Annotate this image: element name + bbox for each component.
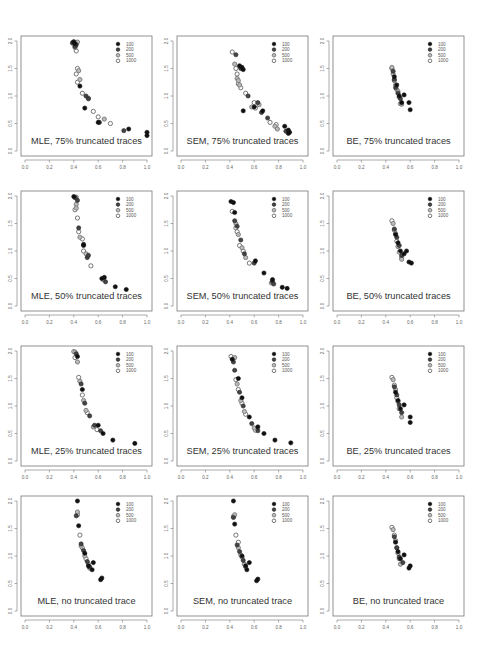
- x-tick-label: 1.0: [300, 625, 307, 630]
- x-tick-label: 0.0: [178, 475, 185, 480]
- legend-label: 500: [438, 363, 446, 368]
- legend-marker-icon: [272, 513, 276, 517]
- data-point-n100: [91, 561, 95, 565]
- y-tick-label: 1.0: [8, 247, 13, 254]
- data-point-n100: [398, 249, 402, 253]
- data-point-n1000: [247, 261, 251, 265]
- legend-label: 200: [282, 357, 290, 362]
- panel-title: BE, 25% truncated traces: [346, 446, 451, 456]
- legend-marker-icon: [272, 369, 276, 373]
- data-point-n500: [275, 127, 279, 131]
- legend-label: 200: [126, 202, 134, 207]
- scatter-panel: 0.00.20.40.60.81.00.00.51.01.52.01002005…: [156, 490, 317, 640]
- data-point-n200: [241, 558, 245, 562]
- data-point-n100: [398, 407, 402, 411]
- legend-marker-icon: [428, 513, 432, 517]
- x-tick-label: 0.2: [202, 165, 209, 170]
- data-point-n1000: [234, 533, 238, 537]
- x-tick-label: 0.2: [46, 625, 53, 630]
- legend-marker-icon: [116, 214, 120, 218]
- legend-marker-icon: [272, 352, 276, 356]
- data-point-n100: [236, 376, 240, 380]
- legend-label: 200: [438, 47, 446, 52]
- scatter-panel: 0.00.20.40.60.81.00.00.51.01.52.01002005…: [156, 185, 317, 335]
- data-point-n100: [75, 499, 79, 503]
- data-point-n200: [392, 535, 396, 539]
- data-point-n100: [408, 415, 412, 419]
- data-point-n100: [398, 557, 402, 561]
- legend-label: 100: [282, 42, 290, 47]
- legend-marker-icon: [272, 358, 276, 362]
- legend-marker-icon: [272, 59, 276, 63]
- x-tick-label: 0.2: [46, 320, 53, 325]
- data-point-n100: [111, 438, 115, 442]
- data-point-n500: [75, 360, 79, 364]
- data-point-n100: [392, 75, 396, 79]
- legend-label: 500: [126, 208, 134, 213]
- x-tick-label: 0.8: [119, 165, 126, 170]
- data-point-n200: [122, 129, 126, 133]
- data-point-n100: [72, 194, 76, 198]
- x-tick-label: 0.4: [227, 625, 234, 630]
- y-tick-label: 2.0: [320, 37, 325, 44]
- legend-label: 1000: [282, 213, 293, 218]
- y-tick-label: 1.5: [8, 65, 13, 72]
- data-point-n200: [231, 515, 235, 519]
- data-point-n200: [88, 414, 92, 418]
- data-point-n100: [289, 441, 293, 445]
- x-tick-label: 0.4: [71, 165, 78, 170]
- legend-marker-icon: [428, 508, 432, 512]
- data-point-n200: [256, 101, 260, 105]
- legend-label: 200: [126, 507, 134, 512]
- data-point-n100: [231, 201, 235, 205]
- data-point-n100: [253, 259, 257, 263]
- data-point-n200: [83, 401, 87, 405]
- y-tick-label: 0.5: [8, 580, 13, 587]
- data-point-n100: [83, 551, 87, 555]
- x-tick-label: 0.2: [358, 320, 365, 325]
- data-point-n200: [233, 219, 237, 223]
- x-tick-label: 0.2: [202, 625, 209, 630]
- y-tick-label: 1.5: [320, 65, 325, 72]
- legend-marker-icon: [116, 519, 120, 523]
- legend-label: 500: [282, 513, 290, 518]
- legend-label: 1000: [126, 213, 137, 218]
- legend-label: 1000: [282, 368, 293, 373]
- legend-marker-icon: [428, 53, 432, 57]
- data-point-n100: [393, 232, 397, 236]
- scatter-panel: 0.00.20.40.60.81.00.00.51.01.52.01002005…: [0, 185, 161, 335]
- x-tick-label: 0.4: [383, 475, 390, 480]
- y-tick-label: 0.0: [320, 302, 325, 309]
- legend-marker-icon: [428, 214, 432, 218]
- data-point-n500: [233, 62, 237, 66]
- y-tick-label: 0.0: [320, 457, 325, 464]
- x-tick-label: 1.0: [456, 625, 463, 630]
- legend-marker-icon: [428, 352, 432, 356]
- panel-title: MLE, 25% truncated traces: [31, 446, 142, 456]
- legend-marker-icon: [428, 519, 432, 523]
- x-tick-label: 0.0: [22, 165, 29, 170]
- panel-title: SEM, 75% truncated traces: [187, 136, 299, 146]
- legend-marker-icon: [272, 519, 276, 523]
- legend-marker-icon: [272, 363, 276, 367]
- data-point-n200: [272, 282, 276, 286]
- data-point-n500: [237, 83, 241, 87]
- data-point-n200: [86, 97, 90, 101]
- data-point-n100: [240, 396, 244, 400]
- legend-label: 200: [126, 47, 134, 52]
- x-tick-label: 0.8: [119, 625, 126, 630]
- data-point-n100: [402, 403, 406, 407]
- legend-label: 100: [126, 197, 134, 202]
- y-tick-label: 2.0: [8, 497, 13, 504]
- x-tick-label: 0.0: [22, 320, 29, 325]
- data-point-n1000: [268, 120, 272, 124]
- legend-label: 200: [282, 202, 290, 207]
- x-tick-label: 0.6: [95, 475, 102, 480]
- y-tick-label: 0.0: [320, 607, 325, 614]
- legend-label: 200: [282, 47, 290, 52]
- data-point-n100: [396, 241, 400, 245]
- legend-marker-icon: [428, 42, 432, 46]
- data-point-n100: [230, 357, 234, 361]
- y-tick-label: 1.0: [164, 402, 169, 409]
- panel-title: MLE, no truncated trace: [37, 596, 135, 606]
